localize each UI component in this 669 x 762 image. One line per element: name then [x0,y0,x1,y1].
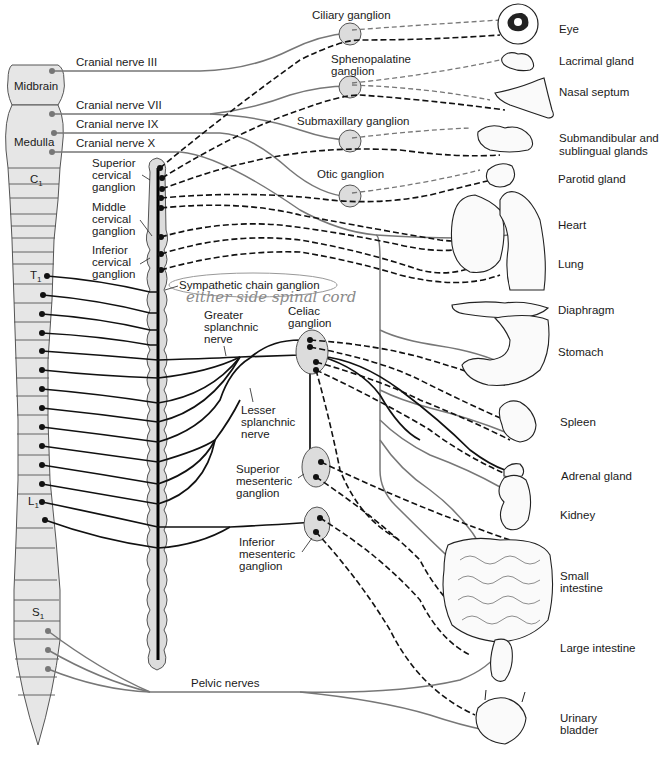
urinary-bladder-illustration [476,690,526,744]
cranial-nerve-labels: Cranial nerve III Cranial nerve VII Cran… [76,56,162,149]
splanchnic-labels: Greater splanchnic nerve Lesser splanchn… [204,309,296,440]
medulla-label: Medulla [14,136,55,148]
spinal-cord: Midbrain Medulla C1 T1 L1 S1 [6,65,65,745]
large-intestine-label: Large intestine [560,642,635,654]
otic-ganglion-label: Otic ganglion [317,168,384,180]
lung-illustration [500,192,545,290]
inferior-mesenteric-ganglion [304,507,330,541]
lung-label: Lung [558,258,584,270]
cranial-nerve-vii-label: Cranial nerve VII [76,99,162,111]
superior-mesenteric-ganglion [302,447,330,487]
ciliary-ganglion-label: Ciliary ganglion [312,9,391,21]
parotid-gland-illustration [486,164,514,187]
small-intestine-illustration [443,538,553,642]
submandibular-label-line2: sublingual glands [559,145,648,157]
celiac-ganglion-line1: Celiac [288,305,320,317]
stomach-label: Stomach [558,346,603,358]
submandibular-label-line1: Submandibular and [559,132,659,144]
superior-cervical-line1: Superior [92,157,136,169]
greater-splanchnic-line2: splanchnic [204,321,259,333]
heart-illustration [451,195,504,273]
inferior-cervical-line2: cervical [92,256,131,268]
abdominal-postganglionic-paths [310,340,520,715]
kidney-illustration [499,475,531,529]
organ-illustrations [443,4,553,744]
parotid-gland-label: Parotid gland [558,173,626,185]
sympathetic-chain [146,158,167,670]
autonomic-nervous-system-diagram: Midbrain Medulla C1 T1 L1 S1 [0,0,669,762]
superior-cervical-line3: ganglion [92,181,135,193]
lesser-splanchnic-line1: Lesser [241,404,276,416]
middle-cervical-line2: cervical [92,213,131,225]
lesser-splanchnic-line2: splanchnic [241,416,296,428]
inferior-mesenteric-line2: mesenteric [239,548,295,560]
celiac-ganglion-line2: ganglion [288,317,331,329]
superior-mesenteric-line2: mesenteric [236,475,292,487]
cranial-nerve-iii-label: Cranial nerve III [76,56,157,68]
handwritten-note: either side spinal cord [186,288,356,306]
sympathetic-chain-label-group: Sympathetic chain ganglion either side s… [165,273,356,306]
cranial-nerve-ix-label: Cranial nerve IX [76,118,159,130]
superior-mesenteric-line1: Superior [236,463,280,475]
cervical-ganglion-labels: Superior cervical ganglion Middle cervic… [92,157,152,280]
submaxillary-ganglion-label: Submaxillary ganglion [297,115,410,127]
urinary-bladder-label-line1: Urinary [560,712,597,724]
eye-label: Eye [559,23,579,35]
nasal-septum-illustration [495,78,553,118]
lacrimal-gland-illustration [502,53,534,71]
lacrimal-gland-label: Lacrimal gland [559,55,634,67]
inferior-mesenteric-line1: Inferior [239,536,275,548]
greater-splanchnic-line1: Greater [204,309,243,321]
inferior-cervical-line3: ganglion [92,268,135,280]
large-intestine-illustration [491,639,513,681]
nasal-septum-label: Nasal septum [559,86,629,98]
spleen-label: Spleen [560,416,596,428]
cranial-nerve-x-label: Cranial nerve X [76,137,156,149]
inferior-mesenteric-line3: ganglion [239,560,282,572]
inferior-cervical-line1: Inferior [92,244,128,256]
submandibular-gland-illustration [478,126,533,152]
midbrain-label: Midbrain [14,80,58,92]
prevertebral-ganglia [296,330,330,541]
otic-ganglion [339,185,361,207]
stomach-illustration [462,315,549,385]
heart-label: Heart [558,219,587,231]
medulla-and-cord [6,105,64,745]
middle-cervical-line1: Middle [92,201,126,213]
middle-cervical-line3: ganglion [92,225,135,237]
eye-illustration [498,4,538,44]
diaphragm-label: Diaphragm [558,304,614,316]
superior-cervical-line2: cervical [92,169,131,181]
sphenopalatine-ganglion [339,76,361,98]
spleen-illustration [499,401,536,442]
celiac-ganglion [296,330,328,374]
superior-mesenteric-line3: ganglion [236,487,279,499]
kidney-label: Kidney [560,509,595,521]
diaphragm-illustration [452,302,548,318]
greater-splanchnic-line3: nerve [204,333,233,345]
small-intestine-label-line1: Small [560,570,589,582]
adrenal-gland-label: Adrenal gland [561,470,632,482]
small-intestine-label-line2: intestine [560,582,603,594]
lesser-splanchnic-line3: nerve [241,428,270,440]
urinary-bladder-label-line2: bladder [560,724,599,736]
pelvic-nerves-label: Pelvic nerves [191,677,260,689]
sphenopalatine-ganglion-label-line2: ganglion [331,65,374,77]
organ-labels: Eye Lacrimal gland Nasal septum Submandi… [558,23,659,736]
pelvic-nerve-paths [45,628,500,730]
sphenopalatine-ganglion-label-line1: Sphenopalatine [331,53,411,65]
